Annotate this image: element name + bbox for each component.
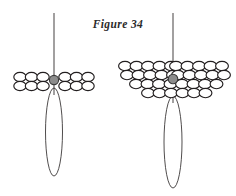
- bead: [141, 79, 154, 88]
- bead: [119, 61, 132, 70]
- bead: [130, 61, 143, 70]
- bead: [181, 61, 194, 70]
- figure-page: Figure 34: [0, 0, 236, 196]
- figure-illustration: [0, 0, 236, 196]
- bead: [132, 70, 145, 79]
- bead: [165, 88, 178, 97]
- bead: [193, 61, 206, 70]
- bead: [82, 81, 94, 90]
- center-bead: [168, 74, 178, 84]
- bead: [14, 81, 26, 90]
- bead: [121, 70, 134, 79]
- bead: [25, 81, 37, 90]
- bead: [199, 88, 212, 97]
- bead: [14, 72, 26, 81]
- bead: [195, 70, 208, 79]
- bead: [176, 88, 189, 97]
- bead: [153, 61, 166, 70]
- bead: [142, 88, 155, 97]
- bead: [59, 72, 71, 81]
- bead: [199, 79, 212, 88]
- bead: [144, 70, 157, 79]
- bead: [70, 81, 82, 90]
- bead: [187, 79, 200, 88]
- bead: [218, 70, 231, 79]
- bead: [153, 79, 166, 88]
- right-figure: [119, 13, 231, 188]
- bead: [142, 61, 155, 70]
- bead: [216, 61, 229, 70]
- left-figure: [14, 13, 94, 176]
- bead: [210, 79, 223, 88]
- bead: [170, 61, 183, 70]
- bead: [183, 70, 196, 79]
- bead: [155, 70, 168, 79]
- bead-row-4: [142, 88, 212, 97]
- bead: [37, 81, 49, 90]
- center-bead: [49, 75, 58, 84]
- bead: [37, 72, 49, 81]
- bead: [82, 72, 94, 81]
- bead: [59, 81, 71, 90]
- bead: [25, 72, 37, 81]
- bead: [204, 61, 217, 70]
- bead: [153, 88, 166, 97]
- bead: [188, 88, 201, 97]
- bead: [130, 79, 143, 88]
- bead-row-1: [119, 61, 229, 70]
- hanging-loop: [46, 88, 63, 176]
- bead: [206, 70, 219, 79]
- bead: [70, 72, 82, 81]
- hanging-loop: [164, 96, 182, 188]
